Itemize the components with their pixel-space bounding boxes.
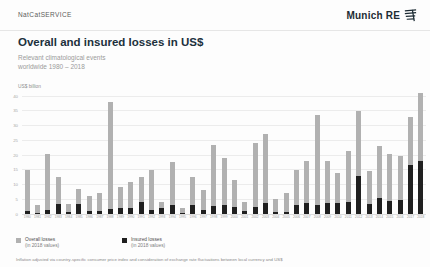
bar-insured-1988 — [108, 209, 113, 214]
bar-insured-2002 — [253, 207, 258, 214]
y-tick-0: 0 — [6, 212, 18, 217]
overall-losses-swatch — [16, 238, 21, 243]
bar-insured-2016 — [398, 200, 403, 214]
x-tick-2018: 2018 — [415, 215, 427, 219]
y-tick-25: 25 — [6, 138, 18, 143]
bar-insured-2007 — [304, 203, 309, 214]
insured-losses-swatch — [122, 238, 127, 243]
bar-insured-1996 — [190, 205, 195, 214]
legend-insured-sublabel: (in 2018 values) — [131, 243, 165, 249]
page-title: Overall and insured losses in US$ — [18, 36, 203, 48]
y-tick-35: 35 — [6, 108, 18, 113]
bar-insured-2005 — [284, 212, 289, 214]
bar-insured-1993 — [159, 208, 164, 214]
bar-insured-2017 — [408, 165, 413, 214]
bar-overall-1988 — [108, 102, 113, 214]
bar-insured-2004 — [273, 212, 278, 214]
bar-overall-1992 — [149, 170, 154, 214]
bar-insured-2006 — [294, 205, 299, 214]
bar-overall-2002 — [253, 143, 258, 214]
bar-insured-2018 — [418, 161, 423, 214]
bar-insured-1984 — [66, 212, 71, 214]
bar-insured-1980 — [25, 211, 30, 214]
bar-insured-2011 — [346, 202, 351, 214]
munich-re-logo-icon — [403, 8, 418, 23]
y-tick-20: 20 — [6, 153, 18, 158]
bar-insured-1992 — [149, 210, 154, 214]
bar-overall-2003 — [263, 134, 268, 214]
bar-overall-1980 — [25, 170, 30, 214]
bar-insured-2010 — [335, 203, 340, 214]
bar-insured-2008 — [315, 205, 320, 214]
y-tick-15: 15 — [6, 167, 18, 172]
gridline-20 — [22, 155, 426, 156]
legend-item-overall-losses: Overall losses (in 2018 values) — [16, 237, 59, 249]
bar-insured-1991 — [139, 202, 144, 214]
bar-insured-1981 — [35, 213, 40, 214]
bar-insured-1990 — [128, 208, 133, 214]
bar-insured-2003 — [263, 203, 268, 214]
bar-insured-1989 — [118, 208, 123, 214]
bar-insured-2013 — [367, 204, 372, 214]
subtitle-line-1: Relevant climatological events — [18, 53, 105, 62]
bar-overall-1982 — [45, 154, 50, 214]
gridline-35 — [22, 110, 426, 111]
gridline-40 — [22, 96, 426, 97]
bar-insured-2009 — [325, 203, 330, 214]
bar-insured-2001 — [242, 211, 247, 214]
munich-re-logo-text: Munich RE — [347, 10, 400, 21]
natcatservice-report: NatCatSERVICE Munich RE Overall and insu… — [0, 0, 430, 267]
header-divider — [0, 30, 430, 31]
bar-insured-1983 — [56, 204, 61, 214]
bar-insured-1987 — [97, 211, 102, 214]
bar-insured-2014 — [377, 198, 382, 214]
gridline-25 — [22, 140, 426, 141]
bar-insured-1999 — [222, 205, 227, 214]
y-tick-40: 40 — [6, 94, 18, 99]
y-tick-10: 10 — [6, 182, 18, 187]
bar-insured-1982 — [45, 210, 50, 214]
bar-insured-1986 — [87, 211, 92, 214]
bar-insured-1985 — [76, 204, 81, 214]
bar-insured-2000 — [232, 207, 237, 214]
bar-insured-1995 — [180, 213, 185, 214]
y-tick-5: 5 — [6, 197, 18, 202]
loss-bar-chart — [22, 96, 426, 214]
subtitle-line-2: worldwide 1980 – 2018 — [18, 62, 85, 71]
bar-insured-1994 — [170, 205, 175, 214]
bar-insured-2012 — [356, 176, 361, 214]
bar-insured-1997 — [201, 210, 206, 214]
bar-insured-1998 — [211, 206, 216, 214]
bar-overall-1998 — [211, 145, 216, 214]
legend-item-insured-losses: Insured losses (in 2018 values) — [122, 237, 165, 249]
bar-overall-2008 — [315, 115, 320, 214]
gridline-30 — [22, 125, 426, 126]
y-axis-unit-label: US$ billion — [18, 84, 41, 89]
legend-overall-sublabel: (in 2018 values) — [25, 243, 59, 249]
bar-insured-2015 — [387, 201, 392, 214]
y-tick-30: 30 — [6, 123, 18, 128]
munich-re-logo: Munich RE — [347, 8, 418, 23]
bar-overall-2005 — [284, 193, 289, 214]
brand-label: NatCatSERVICE — [18, 11, 72, 18]
footnote: Inflation adjusted via country-specific … — [16, 257, 283, 262]
